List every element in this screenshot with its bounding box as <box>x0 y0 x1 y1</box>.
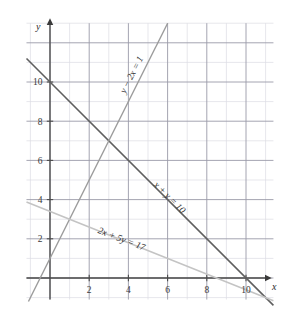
figure-background <box>0 0 292 316</box>
x-tick-label: 2 <box>87 285 92 295</box>
y-axis-label: y <box>35 21 41 32</box>
y-tick-label: 10 <box>33 77 43 87</box>
y-tick-label: 6 <box>38 156 43 166</box>
x-tick-label: 10 <box>241 285 251 295</box>
x-axis-label: x <box>271 281 277 292</box>
x-tick-label: 4 <box>126 285 131 295</box>
y-tick-label: 8 <box>38 117 43 127</box>
graph-figure: 246810246810 x + y = 10y − 2x = 12x + 5y… <box>0 0 292 316</box>
y-tick-label: 4 <box>38 195 43 205</box>
x-tick-label: 8 <box>204 285 209 295</box>
y-tick-label: 2 <box>38 234 43 244</box>
coordinate-plane: 246810246810 x + y = 10y − 2x = 12x + 5y… <box>0 0 292 316</box>
x-tick-label: 6 <box>165 285 170 295</box>
